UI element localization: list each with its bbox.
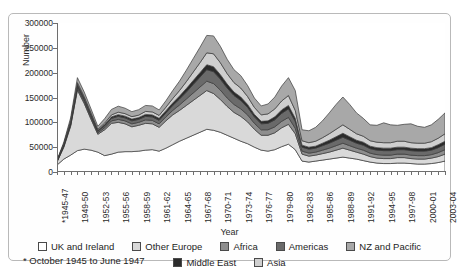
x-tick-label: 1973-74 xyxy=(245,192,254,223)
x-tick-label: 1988-89 xyxy=(347,192,356,223)
y-tick-label: 100000 xyxy=(9,118,53,127)
y-tick-mark xyxy=(53,98,57,99)
x-tick-mark xyxy=(391,171,392,175)
plot-wrapper xyxy=(57,23,445,172)
legend-row-primary: UK and IrelandOther EuropeAfricaAmericas… xyxy=(9,238,450,254)
x-tick-label: 1955-56 xyxy=(122,192,131,223)
legend-swatch-icon xyxy=(276,242,285,251)
legend-item[interactable]: Africa xyxy=(220,241,257,252)
legend-label: Middle East xyxy=(186,257,236,268)
y-tick-label: 250000 xyxy=(9,44,53,53)
x-tick-mark xyxy=(91,171,92,175)
x-tick-mark xyxy=(241,171,242,175)
x-tick-label: 1958-59 xyxy=(143,192,152,223)
legend-label: Asia xyxy=(267,257,285,268)
x-tick-label: 1982-83 xyxy=(306,192,315,223)
chart-title-sliver xyxy=(46,0,166,6)
x-tick-mark xyxy=(254,171,255,175)
x-tick-mark xyxy=(268,171,269,175)
x-tick-mark xyxy=(125,171,126,175)
legend-item[interactable]: UK and Ireland xyxy=(38,241,114,252)
x-tick-mark xyxy=(302,171,303,175)
y-tick-mark xyxy=(53,147,57,148)
legend-label: UK and Ireland xyxy=(51,241,114,252)
x-axis-ticks: *1945-471949-501952-531955-561958-591961… xyxy=(57,171,445,227)
y-tick-label: 300000 xyxy=(9,19,53,28)
x-tick-label: 1985-86 xyxy=(326,192,335,223)
legend-item[interactable]: Asia xyxy=(254,257,285,268)
x-tick-mark xyxy=(322,171,323,175)
x-tick-mark xyxy=(404,171,405,175)
legend-swatch-icon xyxy=(38,242,47,251)
x-tick-mark xyxy=(397,171,398,175)
x-tick-mark xyxy=(370,171,371,175)
x-tick-mark xyxy=(275,171,276,175)
x-tick-mark xyxy=(336,171,337,175)
y-tick-label: 50000 xyxy=(9,143,53,152)
x-tick-mark xyxy=(418,171,419,175)
y-tick-mark xyxy=(53,73,57,74)
x-tick-mark xyxy=(220,171,221,175)
x-tick-mark xyxy=(180,171,181,175)
legend-item[interactable]: Middle East xyxy=(173,257,236,268)
x-tick-mark xyxy=(98,171,99,175)
x-tick-label: 1991-92 xyxy=(367,192,376,223)
x-tick-mark xyxy=(139,171,140,175)
x-tick-mark xyxy=(132,171,133,175)
x-tick-label: 1994-95 xyxy=(388,192,397,223)
x-tick-mark xyxy=(282,171,283,175)
legend-label: Africa xyxy=(233,241,257,252)
x-tick-label: 1976-77 xyxy=(265,192,274,223)
x-tick-mark xyxy=(77,171,78,175)
legend-label: Americas xyxy=(289,241,329,252)
x-tick-mark xyxy=(200,171,201,175)
y-tick-label: 200000 xyxy=(9,69,53,78)
legend-swatch-icon xyxy=(173,258,182,267)
x-tick-mark xyxy=(377,171,378,175)
y-tick-label: 0 xyxy=(9,168,53,177)
x-tick-label: 1961-62 xyxy=(163,192,172,223)
x-tick-label: 1964-65 xyxy=(184,192,193,223)
x-tick-mark xyxy=(425,171,426,175)
stacked-area-plot xyxy=(57,23,445,172)
y-tick-mark xyxy=(53,122,57,123)
x-tick-mark xyxy=(71,171,72,175)
x-tick-mark xyxy=(384,171,385,175)
legend-label: NZ and Pacific xyxy=(359,241,421,252)
x-tick-label: 1970-71 xyxy=(224,192,233,223)
x-tick-mark xyxy=(84,171,85,175)
x-tick-mark xyxy=(295,171,296,175)
x-tick-label: 1979-80 xyxy=(286,192,295,223)
legend-swatch-icon xyxy=(220,242,229,251)
legend-item[interactable]: Americas xyxy=(276,241,329,252)
legend-swatch-icon xyxy=(254,258,263,267)
legend-swatch-icon xyxy=(346,242,355,251)
x-tick-mark xyxy=(145,171,146,175)
x-tick-label: 2003-04 xyxy=(449,192,458,223)
x-tick-mark xyxy=(152,171,153,175)
x-tick-label: 1949-50 xyxy=(81,192,90,223)
x-tick-mark xyxy=(357,171,358,175)
x-tick-mark xyxy=(411,171,412,175)
x-tick-mark xyxy=(159,171,160,175)
x-tick-mark xyxy=(118,171,119,175)
x-tick-mark xyxy=(57,171,58,175)
legend-label: Other Europe xyxy=(145,241,202,252)
x-tick-mark xyxy=(166,171,167,175)
x-tick-mark xyxy=(261,171,262,175)
x-tick-mark xyxy=(363,171,364,175)
x-tick-mark xyxy=(173,171,174,175)
chart-figure-border: Number 050000100000150000200000250000300… xyxy=(8,13,451,261)
x-tick-label: 1967-68 xyxy=(204,192,213,223)
legend-item[interactable]: Other Europe xyxy=(132,241,202,252)
legend-swatch-icon xyxy=(132,242,141,251)
x-tick-mark xyxy=(186,171,187,175)
x-tick-mark xyxy=(343,171,344,175)
legend-item[interactable]: NZ and Pacific xyxy=(346,241,421,252)
x-tick-mark xyxy=(214,171,215,175)
x-tick-label: *1945-47 xyxy=(61,188,70,223)
x-tick-mark xyxy=(207,171,208,175)
x-tick-label: 2000-01 xyxy=(429,192,438,223)
x-tick-mark xyxy=(288,171,289,175)
x-tick-mark xyxy=(431,171,432,175)
